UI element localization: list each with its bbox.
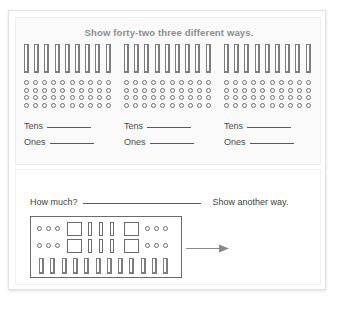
ten-rod — [62, 258, 67, 274]
ones-dots-grid — [22, 80, 118, 110]
ones-dot — [24, 88, 29, 93]
ones-dot — [142, 95, 147, 100]
ten-rod — [110, 222, 114, 236]
ones-dot — [124, 95, 129, 100]
ones-dot — [233, 95, 238, 100]
ten-rod — [88, 239, 92, 253]
ones-label: Ones — [124, 137, 146, 147]
ones-dot — [188, 103, 193, 108]
ones-dots-grid — [122, 80, 218, 110]
representation-column-3: Tens Ones — [222, 44, 318, 156]
tens-rod — [55, 44, 60, 73]
ones-dot-row — [22, 103, 118, 111]
ones-dot — [206, 80, 211, 85]
ones-dot — [24, 103, 29, 108]
ones-dot — [279, 103, 284, 108]
ones-dot — [242, 103, 247, 108]
ones-answer-blank[interactable] — [50, 134, 94, 144]
tens-answer-blank[interactable] — [147, 118, 191, 128]
ones-answer-blank[interactable] — [150, 134, 194, 144]
ten-rod — [96, 258, 101, 274]
ones-dot-row — [122, 95, 218, 103]
tens-rod — [234, 44, 239, 73]
ones-dot — [33, 95, 38, 100]
ones-dot — [206, 95, 211, 100]
ones-line: Ones — [224, 134, 294, 150]
tens-answer-blank[interactable] — [47, 118, 91, 128]
ones-line: Ones — [124, 134, 194, 150]
ones-dot — [188, 80, 193, 85]
ones-dot — [160, 88, 165, 93]
ones-dot — [288, 80, 293, 85]
ones-dot — [33, 88, 38, 93]
ones-dot-row — [222, 95, 318, 103]
tens-rod — [24, 44, 29, 73]
unit-dot — [145, 243, 150, 248]
representation-column-1: Tens Ones — [22, 44, 118, 156]
ones-dot — [142, 88, 147, 93]
ones-dot — [106, 80, 111, 85]
tens-label: Tens — [224, 121, 243, 131]
ones-answer-blank[interactable] — [250, 134, 294, 144]
ten-rod — [50, 258, 55, 274]
ones-dot — [70, 103, 75, 108]
ones-dot — [133, 103, 138, 108]
ones-dot-row — [222, 103, 318, 111]
ten-rod — [39, 258, 44, 274]
tens-rod — [206, 44, 211, 73]
ones-dot — [97, 80, 102, 85]
ones-dot — [197, 95, 202, 100]
ten-rod — [107, 258, 112, 274]
ones-dot — [270, 103, 275, 108]
tens-rod — [244, 44, 249, 73]
tens-rod — [255, 44, 260, 73]
ones-dot — [51, 103, 56, 108]
arrow-right-icon — [186, 244, 230, 253]
ones-dot — [60, 80, 65, 85]
ones-dot — [88, 88, 93, 93]
hundred-flat — [67, 239, 82, 253]
ones-dot — [170, 103, 175, 108]
unit-dot — [46, 243, 51, 248]
ones-dot — [260, 103, 265, 108]
tens-rod — [44, 44, 49, 73]
ones-dot — [251, 88, 256, 93]
ones-dot — [288, 103, 293, 108]
ones-dot — [79, 80, 84, 85]
place-value-labels: Tens Ones — [124, 118, 194, 150]
tens-rod — [195, 44, 200, 73]
ten-rod — [99, 239, 103, 253]
tens-rod — [106, 44, 111, 73]
ones-dot — [124, 88, 129, 93]
ones-dot — [33, 103, 38, 108]
tens-rods-group — [22, 44, 118, 74]
ones-dot — [88, 80, 93, 85]
ones-dot — [306, 103, 311, 108]
ten-rod — [73, 258, 78, 274]
tens-answer-blank[interactable] — [247, 118, 291, 128]
ones-dot — [151, 103, 156, 108]
tens-rod — [155, 44, 160, 73]
ones-dot — [242, 80, 247, 85]
ones-dot — [97, 88, 102, 93]
ones-dot — [306, 88, 311, 93]
unit-dot — [163, 243, 168, 248]
ones-dot — [233, 80, 238, 85]
how-much-answer-blank[interactable] — [83, 194, 201, 204]
ones-dot — [188, 95, 193, 100]
ones-dot — [106, 95, 111, 100]
ones-dot — [288, 95, 293, 100]
ones-dot — [260, 88, 265, 93]
tens-rod — [65, 44, 70, 73]
ones-dot — [288, 88, 293, 93]
hundred-flat — [124, 239, 139, 253]
ones-dot — [279, 88, 284, 93]
ones-dot — [133, 88, 138, 93]
ones-dot — [42, 103, 47, 108]
place-value-labels: Tens Ones — [24, 118, 94, 150]
ones-dot — [142, 103, 147, 108]
hundred-flat — [124, 222, 139, 236]
blocks-upper-rows — [31, 217, 183, 255]
ones-dot — [270, 95, 275, 100]
ones-dot — [251, 95, 256, 100]
